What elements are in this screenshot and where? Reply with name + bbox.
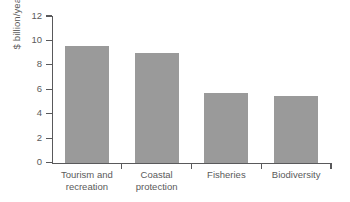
y-axis-line [52, 16, 53, 164]
y-axis-tick-label: 4 [16, 108, 42, 118]
bar [65, 46, 109, 163]
x-axis-label: Biodiversity [261, 169, 331, 181]
y-axis-tick-label: 0 [16, 157, 42, 167]
y-axis-tick [46, 40, 52, 41]
bar [204, 93, 248, 163]
y-axis-tick [46, 89, 52, 90]
y-axis-tick-label: 10 [16, 35, 42, 45]
y-axis-tick-label: 2 [16, 133, 42, 143]
y-axis-tick [46, 113, 52, 114]
x-axis-label: Tourism and recreation [52, 169, 122, 192]
bar [274, 96, 318, 163]
bar-chart: $ billion/year 024681012 Tourism and rec… [0, 0, 350, 202]
y-axis-tick [46, 138, 52, 139]
bar [135, 53, 179, 163]
y-axis-tick-label: 6 [16, 84, 42, 94]
y-axis-tick [46, 162, 52, 163]
x-axis-label: Fisheries [192, 169, 262, 181]
y-axis-tick-label: 12 [16, 11, 42, 21]
y-axis-tick-label: 8 [16, 59, 42, 69]
y-axis-tick [46, 64, 52, 65]
x-axis-label: Coastal protection [122, 169, 192, 192]
y-axis-tick [46, 15, 52, 16]
